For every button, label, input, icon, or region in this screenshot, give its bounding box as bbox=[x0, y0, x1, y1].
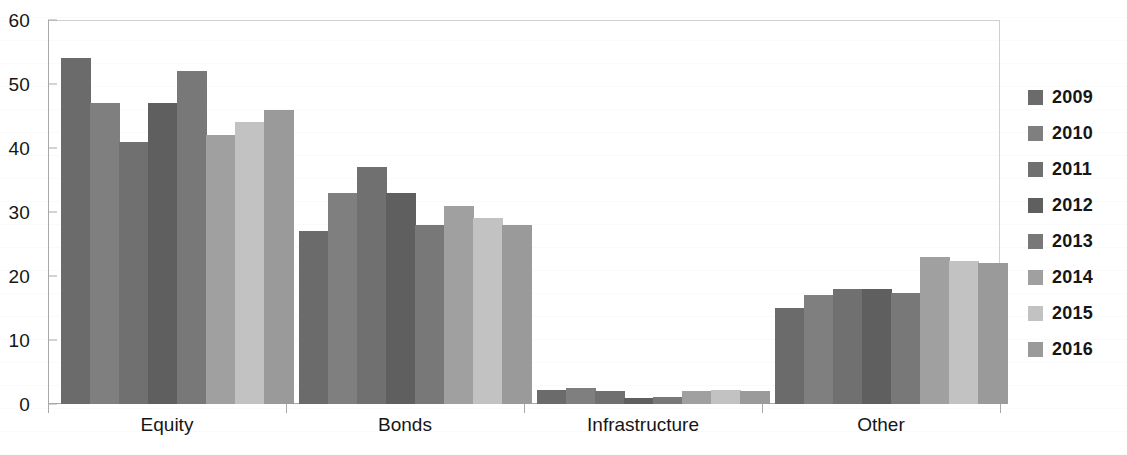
legend-item-label: 2013 bbox=[1052, 232, 1093, 250]
bar bbox=[328, 193, 358, 404]
y-axis-tick-label: 20 bbox=[8, 267, 30, 286]
bar bbox=[920, 257, 950, 404]
y-axis-tick-mark bbox=[48, 148, 57, 149]
y-axis-tick-label: 30 bbox=[8, 203, 30, 222]
bar bbox=[682, 391, 712, 404]
y-axis-tick-label: 10 bbox=[8, 331, 30, 350]
bar bbox=[595, 391, 625, 404]
y-axis: 0102030405060 bbox=[0, 0, 48, 455]
bar bbox=[624, 398, 654, 404]
bar bbox=[537, 390, 567, 404]
y-axis-tick-mark bbox=[48, 340, 57, 341]
legend-item-label: 2010 bbox=[1052, 124, 1093, 142]
bar bbox=[804, 295, 834, 404]
legend-swatch-icon bbox=[1028, 270, 1043, 285]
legend-item[interactable]: 2016 bbox=[1028, 331, 1123, 367]
bar bbox=[90, 103, 120, 404]
bar-chart: 0102030405060 EquityBondsInfrastructureO… bbox=[0, 0, 1127, 455]
bar bbox=[653, 397, 683, 404]
y-axis-tick-mark bbox=[48, 84, 57, 85]
x-axis-tick-mark bbox=[286, 404, 287, 413]
y-axis-tick-label: 0 bbox=[19, 395, 30, 414]
legend-item[interactable]: 2009 bbox=[1028, 79, 1123, 115]
bar bbox=[177, 71, 207, 404]
bar-group bbox=[775, 20, 1007, 404]
x-axis-category-label: Bonds bbox=[378, 415, 432, 434]
x-axis-tick-mark bbox=[1000, 404, 1001, 413]
bar-group bbox=[299, 20, 531, 404]
bar bbox=[206, 135, 236, 404]
bar-group bbox=[537, 20, 769, 404]
legend-item[interactable]: 2011 bbox=[1028, 151, 1123, 187]
y-axis-tick-label: 60 bbox=[8, 11, 30, 30]
y-axis-tick-mark bbox=[48, 20, 57, 21]
legend-swatch-icon bbox=[1028, 198, 1043, 213]
legend-item[interactable]: 2015 bbox=[1028, 295, 1123, 331]
y-axis-tick-label: 50 bbox=[8, 75, 30, 94]
x-axis-category-label: Infrastructure bbox=[587, 415, 699, 434]
bar bbox=[444, 206, 474, 404]
chart-legend: 20092010201120122013201420152016 bbox=[1028, 79, 1123, 367]
legend-item-label: 2011 bbox=[1052, 160, 1092, 178]
x-axis-tick-mark bbox=[524, 404, 525, 413]
legend-item[interactable]: 2012 bbox=[1028, 187, 1123, 223]
y-axis-tick-label: 40 bbox=[8, 139, 30, 158]
legend-item-label: 2009 bbox=[1052, 88, 1093, 106]
x-axis-category-label: Other bbox=[857, 415, 905, 434]
bar bbox=[148, 103, 178, 404]
bar bbox=[473, 218, 503, 404]
y-axis-tick-mark bbox=[48, 276, 57, 277]
bar bbox=[978, 263, 1008, 404]
legend-item-label: 2012 bbox=[1052, 196, 1093, 214]
x-axis-tick-mark bbox=[762, 404, 763, 413]
legend-item-label: 2016 bbox=[1052, 340, 1093, 358]
x-axis-category-label: Equity bbox=[141, 415, 194, 434]
legend-swatch-icon bbox=[1028, 306, 1043, 321]
legend-item[interactable]: 2014 bbox=[1028, 259, 1123, 295]
bar bbox=[740, 391, 770, 404]
y-axis-tick-mark bbox=[48, 404, 57, 405]
bar bbox=[235, 122, 265, 404]
bar bbox=[891, 293, 921, 404]
bar bbox=[415, 225, 445, 404]
bar bbox=[386, 193, 416, 404]
bar bbox=[833, 289, 863, 404]
bar bbox=[61, 58, 91, 404]
bar bbox=[775, 308, 805, 404]
legend-swatch-icon bbox=[1028, 234, 1043, 249]
legend-item[interactable]: 2010 bbox=[1028, 115, 1123, 151]
legend-item[interactable]: 2013 bbox=[1028, 223, 1123, 259]
bar bbox=[264, 110, 294, 404]
legend-swatch-icon bbox=[1028, 162, 1043, 177]
bar bbox=[299, 231, 329, 404]
legend-swatch-icon bbox=[1028, 90, 1043, 105]
legend-swatch-icon bbox=[1028, 342, 1043, 357]
bar bbox=[357, 167, 387, 404]
y-axis-tick-mark bbox=[48, 212, 57, 213]
legend-item-label: 2014 bbox=[1052, 268, 1093, 286]
legend-swatch-icon bbox=[1028, 126, 1043, 141]
bar bbox=[949, 261, 979, 404]
bar bbox=[119, 142, 149, 404]
bar-group bbox=[61, 20, 293, 404]
legend-item-label: 2015 bbox=[1052, 304, 1093, 322]
bar bbox=[862, 289, 892, 404]
bar bbox=[711, 390, 741, 404]
bar bbox=[566, 388, 596, 404]
bar bbox=[502, 225, 532, 404]
x-axis-tick-mark bbox=[48, 404, 49, 413]
bars-layer bbox=[48, 20, 1000, 404]
